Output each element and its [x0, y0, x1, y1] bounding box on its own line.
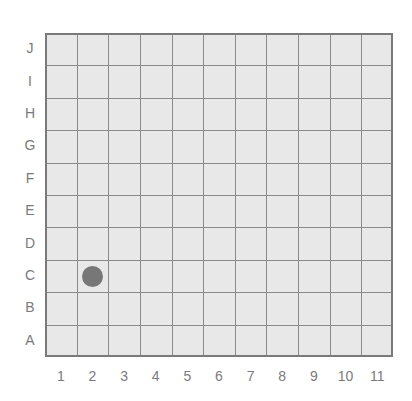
grid-horizontal-line	[47, 163, 391, 164]
column-label: 6	[204, 368, 234, 384]
grid-horizontal-line	[47, 98, 391, 99]
column-label: 4	[141, 368, 171, 384]
row-label: F	[18, 170, 42, 186]
marker-dot	[82, 266, 103, 287]
column-label: 5	[172, 368, 202, 384]
row-label: C	[18, 267, 42, 283]
row-label: B	[18, 299, 42, 315]
row-label: I	[18, 73, 42, 89]
row-label: D	[18, 235, 42, 251]
column-label: 10	[331, 368, 361, 384]
row-label: G	[18, 137, 42, 153]
grid-horizontal-line	[47, 260, 391, 261]
row-label: A	[18, 332, 42, 348]
grid-horizontal-line	[47, 130, 391, 131]
column-label: 2	[77, 368, 107, 384]
column-label: 3	[109, 368, 139, 384]
column-label: 9	[299, 368, 329, 384]
coordinate-grid	[45, 33, 393, 357]
grid-horizontal-line	[47, 227, 391, 228]
column-label: 7	[236, 368, 266, 384]
row-label: H	[18, 105, 42, 121]
column-label: 8	[267, 368, 297, 384]
row-label: E	[18, 202, 42, 218]
grid-horizontal-line	[47, 292, 391, 293]
column-label: 11	[362, 368, 392, 384]
grid-horizontal-line	[47, 325, 391, 326]
column-label: 1	[46, 368, 76, 384]
grid-horizontal-line	[47, 65, 391, 66]
row-label: J	[18, 40, 42, 56]
grid-horizontal-line	[47, 195, 391, 196]
